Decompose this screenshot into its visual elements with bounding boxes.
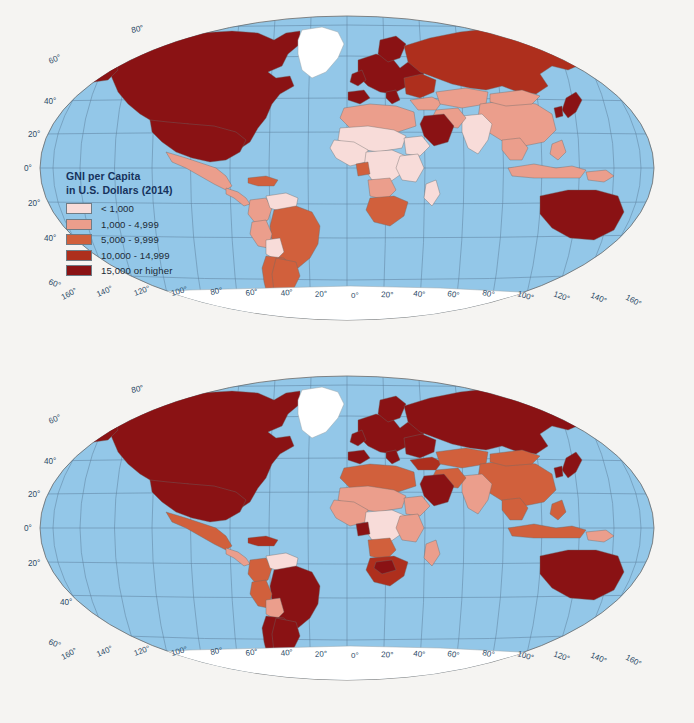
legend-swatch [66, 219, 92, 230]
lon-label: 160° [624, 293, 643, 309]
lat-label: 60° [47, 413, 62, 426]
lon-label: 160° [60, 286, 79, 302]
lat-label: 20° [28, 559, 40, 568]
legend-entry: < 1,000 [66, 201, 173, 217]
atlas-page: 80° 60° 40° 20° 0° 20° 40° 60° 160° 140°… [0, 0, 694, 723]
lat-label: 80° [130, 23, 144, 35]
lat-label: 0° [24, 164, 32, 173]
lon-label: 60° [245, 647, 258, 658]
legend-swatch [66, 265, 92, 276]
lat-label: 20° [28, 199, 40, 208]
lon-label: 40° [280, 288, 293, 298]
legend-label: 10,000 - 14,999 [101, 250, 170, 261]
lat-label: 40° [44, 97, 56, 106]
lon-label: 120° [133, 644, 152, 658]
legend-label: 15,000 or higher [101, 265, 172, 276]
lon-label: 100° [516, 649, 534, 662]
lon-label: 140° [95, 644, 114, 659]
lon-label: 140° [589, 291, 608, 306]
region-new-zealand [636, 592, 652, 614]
lon-label: 20° [381, 650, 394, 660]
legend-entry: 1,000 - 4,999 [66, 217, 173, 233]
lon-label: 40° [280, 648, 293, 658]
legend-swatch [66, 203, 92, 214]
lat-label: 40° [44, 457, 56, 466]
legend-label: 5,000 - 9,999 [101, 234, 159, 245]
lon-label: 140° [589, 651, 608, 666]
legend-label: < 1,000 [101, 203, 134, 214]
region-gabon [356, 162, 370, 176]
lat-label: 40° [60, 598, 72, 607]
lon-label: 20° [315, 289, 328, 299]
lat-label: 20° [28, 130, 40, 139]
lon-label: 40° [413, 289, 426, 299]
legend-label: 1,000 - 4,999 [101, 219, 159, 230]
world-map-bottom: 80° 60° 40° 20° 0° 20° 40° 60° 160° 140°… [0, 360, 694, 723]
lon-label: 0° [351, 651, 359, 660]
lon-label: 20° [381, 290, 394, 300]
region-gabon [356, 522, 370, 536]
lat-label: 60° [47, 53, 62, 66]
legend-entry: 10,000 - 14,999 [66, 248, 173, 264]
lon-label: 140° [95, 284, 114, 299]
legend-title-line: in U.S. Dollars (2014) [66, 184, 173, 198]
region-new-zealand [636, 232, 652, 254]
legend-swatch [66, 250, 92, 261]
legend-title: GNI per Capita in U.S. Dollars (2014) [66, 170, 173, 197]
lon-label: 100° [516, 289, 534, 302]
lon-label: 0° [351, 291, 359, 300]
legend-entry: 15,000 or higher [66, 263, 173, 279]
lat-label: 60° [47, 637, 62, 650]
lon-label: 60° [245, 287, 258, 298]
lon-label: 120° [552, 649, 571, 663]
lon-label: 120° [133, 284, 152, 298]
legend-title-line: GNI per Capita [66, 170, 173, 184]
lat-label: 40° [44, 234, 56, 243]
lat-label: 60° [47, 277, 62, 290]
map-panel-gni-per-capita: 80° 60° 40° 20° 0° 20° 40° 60° 160° 140°… [0, 0, 694, 360]
lat-label: 20° [28, 490, 40, 499]
legend-gni-per-capita: GNI per Capita in U.S. Dollars (2014) < … [66, 170, 173, 279]
lon-label: 60° [447, 289, 460, 300]
lon-label: 160° [624, 653, 643, 669]
lon-label: 120° [552, 289, 571, 303]
lon-label: 20° [315, 649, 328, 659]
lon-label: 40° [413, 649, 426, 659]
lon-label: 60° [447, 649, 460, 660]
legend-entry: 5,000 - 9,999 [66, 232, 173, 248]
lat-label: 0° [24, 524, 32, 533]
map-panel-gni-ppp: 80° 60° 40° 20° 0° 20° 40° 60° 160° 140°… [0, 360, 694, 723]
lon-label: 160° [60, 646, 79, 662]
legend-entries: < 1,000 1,000 - 4,999 5,000 - 9,999 10,0… [66, 201, 173, 279]
legend-swatch [66, 234, 92, 245]
lat-label: 80° [130, 383, 144, 395]
